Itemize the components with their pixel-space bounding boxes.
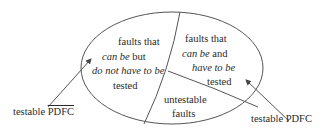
right-region-line3: have to be [192,62,235,74]
bottom-region-line2: faults [172,108,195,120]
label-testable-prefix: testable [13,106,45,117]
left-region-line3: do not have to be [92,65,164,77]
fault-classification-diagram: faults that can be but do not have to be… [0,0,324,130]
left-region-line4: tested [113,80,138,92]
label-testable-pdfc: testable PDFC [251,113,312,125]
right-region-and: and [212,48,227,59]
left-region-but: but [132,51,145,62]
right-region-can-be: can be [182,48,210,59]
bottom-region-line1: untestable [164,94,207,106]
right-region-line1: faults that [185,33,227,45]
left-region-can-be: can be [102,51,130,62]
left-region-line2: can be but [102,51,146,63]
left-region-line1: faults that [118,36,160,48]
label-pdfc-overlined: PDFC [48,106,74,117]
right-region-line2: can be and [182,48,228,60]
label-testable-pdfc-bar: testable PDFC [13,106,74,118]
right-region-line4: tested [207,76,232,88]
